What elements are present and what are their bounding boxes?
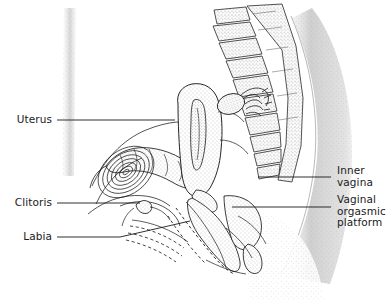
sacrum-vertebrae <box>213 4 303 182</box>
anatomy-figure: Uterus Clitoris Labia Inner vagina Vagin… <box>0 0 391 307</box>
label-uterus: Uterus <box>0 114 52 126</box>
anatomy-illustration <box>0 0 391 307</box>
label-labia: Labia <box>0 231 52 243</box>
label-vaginal-orgasmic-platform: Vaginal orgasmic platform <box>337 194 391 229</box>
label-inner-vagina: Inner vagina <box>337 165 391 188</box>
labia <box>126 220 188 262</box>
label-clitoris: Clitoris <box>0 197 52 209</box>
labia-leader <box>57 221 190 237</box>
abdominal-wall <box>60 6 80 181</box>
